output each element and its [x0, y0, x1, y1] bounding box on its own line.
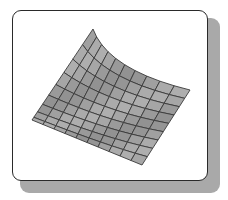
surface-fill — [32, 29, 190, 165]
surface-mesh — [0, 0, 228, 200]
